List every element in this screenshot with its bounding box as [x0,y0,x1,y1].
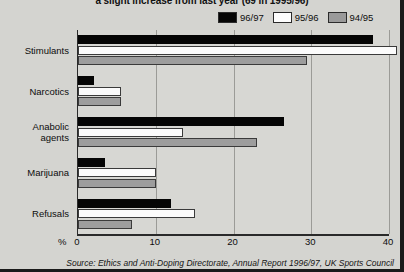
x-tick-30: 30 [305,236,316,247]
legend-item-9697: 96/97 [218,12,264,23]
x-tick-10: 10 [149,236,160,247]
source-note: Source: Ethics and Anti-Doping Directora… [0,258,396,268]
y-label-narcotics: Narcotics [29,86,69,97]
bar-refusals-94-95 [78,220,132,229]
bar-stimulants-95-96 [78,46,397,55]
legend-label-9495: 94/95 [350,13,374,23]
bar-group-marijuana [78,158,389,188]
y-label-refusals: Refusals [32,208,69,219]
legend-swatch-white-icon [273,12,292,23]
bar-anabolic-agents-94-95 [78,138,257,147]
bar-stimulants-94-95 [78,56,307,65]
bar-marijuana-96-97 [78,158,105,167]
bar-group-stimulants [78,35,389,65]
y-label-stimulants: Stimulants [25,45,69,56]
bar-marijuana-95-96 [78,168,156,177]
x-axis-tick-labels: 010203040 [0,236,404,250]
bar-narcotics-95-96 [78,87,121,96]
bar-narcotics-94-95 [78,97,121,106]
legend-label-9596: 95/96 [295,13,319,23]
legend-item-9596: 95/96 [273,12,319,23]
bar-marijuana-94-95 [78,179,156,188]
gridline-40 [389,30,390,234]
bar-group-refusals [78,199,389,229]
y-axis-category-labels: StimulantsNarcoticsAnabolicagentsMarijua… [0,30,72,234]
x-tick-0: 0 [74,236,79,247]
legend-item-9495: 94/95 [328,12,374,23]
bar-anabolic-agents-95-96 [78,128,183,137]
bar-group-narcotics [78,76,389,106]
plot-area [77,30,389,234]
y-label-marijuana: Marijuana [27,167,69,178]
bar-anabolic-agents-96-97 [78,117,284,126]
frame-right-edge [400,0,404,272]
chart-title: a slight increase from last year (69 in … [0,0,404,6]
chart-legend: 96/97 95/96 94/95 [218,12,373,23]
legend-label-9697: 96/97 [240,13,264,23]
bar-refusals-95-96 [78,209,195,218]
x-tick-20: 20 [227,236,238,247]
bar-refusals-96-97 [78,199,171,208]
chart-screenshot: a slight increase from last year (69 in … [0,0,404,272]
bar-stimulants-96-97 [78,35,373,44]
x-tick-40: 40 [383,236,394,247]
legend-swatch-black-icon [218,12,237,23]
bar-narcotics-96-97 [78,76,94,85]
y-label-anabolic: Anabolicagents [33,121,69,143]
bar-group-anabolic-agents [78,117,389,147]
legend-swatch-gray-icon [328,12,347,23]
